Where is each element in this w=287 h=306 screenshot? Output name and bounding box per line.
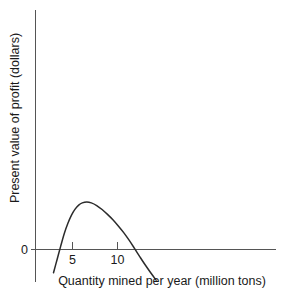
x-axis-title: Quantity mined per year (million tons) xyxy=(58,274,266,288)
x-tick-label-10: 10 xyxy=(111,253,125,267)
x-tick-label-5: 5 xyxy=(69,253,76,267)
chart-canvas: 0 5 10 Quantity mined per year (million … xyxy=(0,0,287,306)
chart-figure: 0 5 10 Quantity mined per year (million … xyxy=(0,0,287,306)
profit-curve xyxy=(54,202,157,280)
y-axis-title: Present value of profit (dollars) xyxy=(8,33,22,203)
y-tick-label-0: 0 xyxy=(21,243,28,257)
